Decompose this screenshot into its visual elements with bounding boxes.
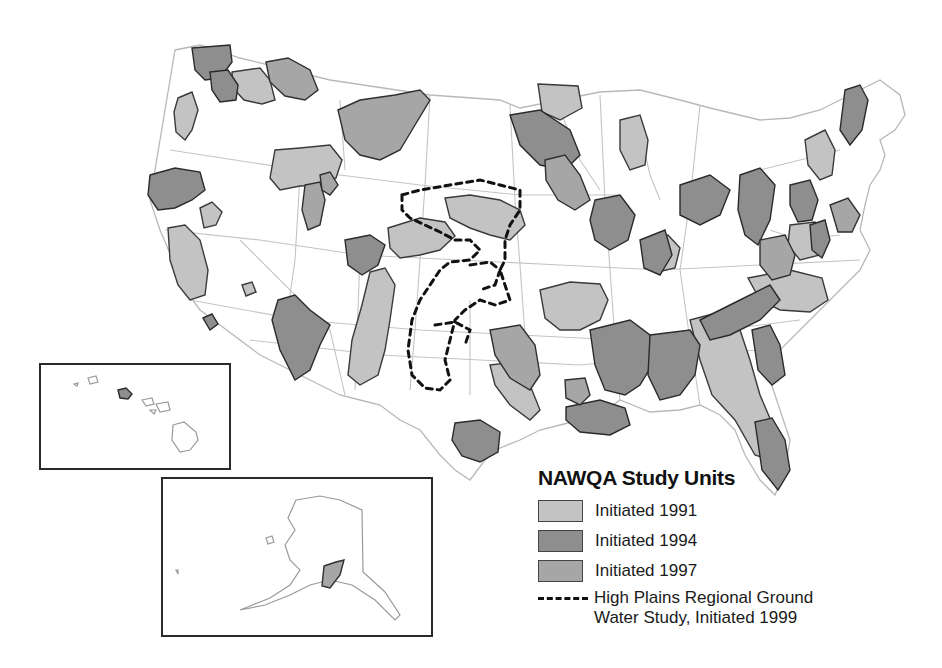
- legend-dash-label: High Plains Regional Ground Water Study,…: [594, 588, 813, 628]
- legend-label: Initiated 1994: [595, 531, 697, 551]
- legend-title: NAWQA Study Units: [538, 466, 858, 490]
- legend-item-high-plains: High Plains Regional Ground Water Study,…: [538, 588, 858, 628]
- legend-dash-line1: High Plains Regional Ground: [594, 588, 813, 608]
- legend-item-1991: Initiated 1991: [538, 496, 858, 526]
- legend-label: Initiated 1997: [595, 561, 697, 581]
- legend-dash-line2: Water Study, Initiated 1999: [594, 608, 813, 628]
- legend-swatch-1997: [538, 560, 583, 582]
- legend-item-1994: Initiated 1994: [538, 526, 858, 556]
- legend-item-1997: Initiated 1997: [538, 556, 858, 586]
- hawaii-inset: [40, 364, 230, 469]
- legend-swatch-1994: [538, 530, 583, 552]
- legend: NAWQA Study Units Initiated 1991 Initiat…: [538, 466, 858, 628]
- alaska-inset: [162, 478, 432, 636]
- legend-label: Initiated 1991: [595, 501, 697, 521]
- dashed-line-icon: [538, 597, 588, 600]
- legend-swatch-1991: [538, 500, 583, 522]
